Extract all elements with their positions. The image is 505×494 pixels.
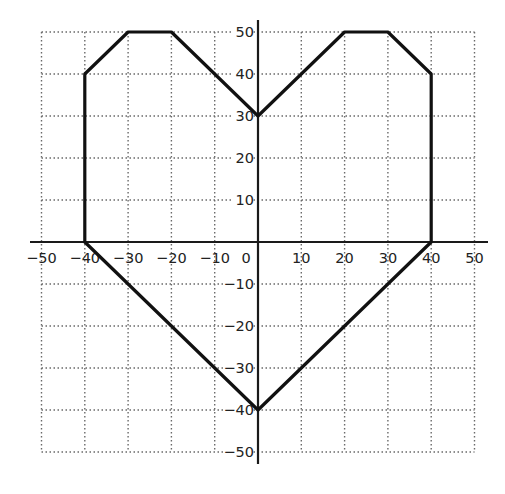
y-tick-label: −10	[223, 276, 254, 292]
x-tick-label: 20	[335, 250, 353, 266]
x-tick-label: 0	[241, 250, 250, 266]
x-tick-label: 40	[422, 250, 440, 266]
x-tick-label: 50	[465, 250, 483, 266]
x-tick-label: −10	[199, 250, 230, 266]
coordinate-plane-chart: −50−40−30−20−1001020304050 5040302010−10…	[0, 0, 505, 494]
y-tick-label: 40	[236, 66, 254, 82]
x-tick-label: 10	[292, 250, 310, 266]
axes	[30, 20, 488, 464]
x-tick-label: 30	[379, 250, 397, 266]
x-tick-label: −30	[113, 250, 144, 266]
x-tick-label: −20	[156, 250, 187, 266]
y-tick-label: −20	[223, 318, 254, 334]
y-tick-label: −30	[223, 360, 254, 376]
y-tick-label: 20	[236, 150, 254, 166]
y-tick-label: −40	[223, 402, 254, 418]
x-tick-label: −50	[26, 250, 57, 266]
y-tick-label: 50	[236, 24, 254, 40]
y-tick-label: −50	[223, 444, 254, 460]
y-tick-label: 10	[236, 192, 254, 208]
